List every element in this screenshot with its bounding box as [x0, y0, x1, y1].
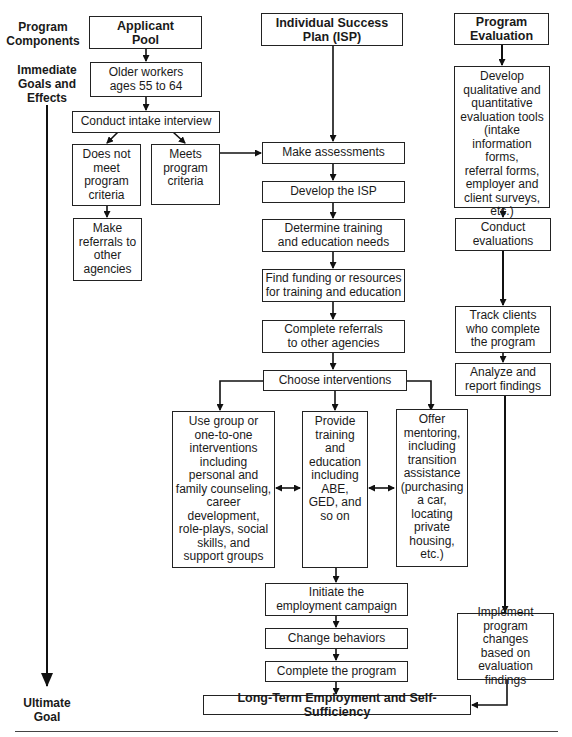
- isp-header: Individual Success Plan (ISP): [261, 13, 403, 46]
- complete-program-box: Complete the program: [265, 661, 408, 682]
- initiate-campaign-box: Initiate the employment campaign: [265, 583, 408, 616]
- group-interventions-box: Use group or one-to-one interventions in…: [172, 411, 275, 568]
- bottom-rule: [15, 731, 558, 732]
- make-assessments-box: Make assessments: [262, 142, 405, 164]
- change-behaviors-box: Change behaviors: [265, 628, 408, 649]
- conduct-intake-box: Conduct intake interview: [72, 111, 220, 133]
- implement-changes-box: Implement program changes based on evalu…: [457, 613, 554, 680]
- complete-referrals-box: Complete referrals to other agencies: [262, 320, 405, 353]
- ultimate-goal-label: Ultimate Goal: [8, 696, 86, 724]
- meets-criteria-box: Meets program criteria: [151, 144, 220, 205]
- conduct-evaluations-box: Conduct evaluations: [455, 218, 551, 251]
- program-components-label: Program Components: [2, 20, 84, 48]
- make-referrals-box: Make referrals to other agencies: [73, 218, 142, 281]
- find-funding-box: Find funding or resources for training a…: [262, 269, 405, 302]
- older-workers-box: Older workers ages 55 to 64: [90, 62, 202, 97]
- training-education-box: Provide training and education including…: [302, 411, 368, 568]
- immediate-goals-label: Immediate Goals and Effects: [8, 63, 86, 105]
- develop-tools-box: Develop qualitative and quantitative eva…: [454, 66, 550, 208]
- applicant-pool-header: Applicant Pool: [89, 16, 202, 49]
- track-clients-box: Track clients who complete the program: [455, 306, 551, 353]
- does-not-meet-box: Does not meet program criteria: [72, 144, 141, 206]
- program-evaluation-header: Program Evaluation: [454, 13, 549, 45]
- choose-interventions-box: Choose interventions: [263, 370, 407, 391]
- develop-isp-box: Develop the ISP: [262, 181, 405, 203]
- analyze-report-box: Analyze and report findings: [455, 363, 551, 396]
- long-term-employment-box: Long-Term Employment and Self-Sufficienc…: [203, 695, 471, 715]
- mentoring-box: Offer mentoring, including transition as…: [396, 409, 468, 567]
- determine-needs-box: Determine training and education needs: [262, 219, 405, 252]
